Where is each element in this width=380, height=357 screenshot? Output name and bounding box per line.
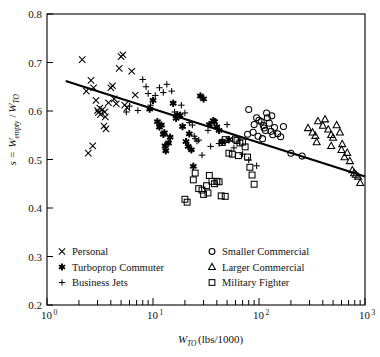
legend-item-turboprop-commuter[interactable]: Turboprop Commuter [59,262,165,273]
y-axis-tick-labels: 0.20.30.40.50.60.70.8 [28,8,42,311]
data-point [246,107,252,113]
x-marker-icon [59,248,65,254]
legend-label: Business Jets [72,277,128,288]
data-point [109,83,115,89]
legend-item-smaller-commercial[interactable]: Smaller Commercial [209,246,309,257]
data-point [266,120,272,126]
svg-text:2: 2 [266,308,270,317]
svg-text:0: 0 [54,308,58,317]
chart-figure: 0.20.30.40.50.60.70.8 100101102103 s = W… [0,0,380,357]
data-point [116,65,122,71]
y-tick-label: 0.4 [28,202,42,214]
data-point [190,163,196,170]
legend: PersonalTurboprop CommuterBusiness JetsS… [59,246,309,288]
x-tick-label: 101 [147,308,164,322]
data-point [336,129,343,135]
legend-item-business-jets[interactable]: Business Jets [59,277,128,288]
y-tick-label: 0.6 [28,105,42,117]
data-point [305,124,312,130]
y-axis-ticks [47,14,53,305]
svg-text:1: 1 [160,308,164,317]
triangle-marker-icon [209,263,216,269]
data-point [251,181,257,187]
data-point [168,88,174,94]
data-point [247,164,253,170]
data-point [179,123,185,130]
data-point [129,68,135,74]
y-tick-label: 0.5 [28,154,42,166]
svg-text:10: 10 [253,309,265,321]
legend-label: Personal [72,246,108,257]
x-tick-label: 102 [253,308,270,322]
data-point [145,90,151,96]
x-axis-title-text: WTO (lbs/1000) [178,333,244,348]
data-point [322,116,329,122]
y-axis-title: s = Wempty/WTO [6,93,21,165]
data-point [245,154,251,160]
data-point [313,138,320,144]
data-point [164,81,170,87]
data-point [192,170,198,176]
series-business-jets [123,76,260,169]
y-tick-label: 0.3 [28,251,42,263]
data-point [135,107,141,113]
data-point [120,52,126,58]
scatter-plot-svg: 0.20.30.40.50.60.70.8 100101102103 s = W… [0,0,380,357]
square-marker-icon [209,280,215,286]
data-point [205,190,211,196]
data-point [156,85,162,91]
data-point [314,118,321,124]
legend-label: Larger Commercial [222,262,304,273]
legend-item-larger-commercial[interactable]: Larger Commercial [209,262,305,273]
svg-text:s =: s = [6,151,18,165]
svg-text:TO: TO [187,339,197,348]
svg-text:10: 10 [41,309,53,321]
data-point [233,136,239,142]
data-point [250,129,256,135]
legend-item-military-fighter[interactable]: Military Fighter [209,277,290,288]
x-tick-label: 100 [41,308,58,322]
data-point [199,152,205,158]
data-points [79,52,364,206]
series-smaller-commercial [245,107,306,160]
x-axis-ticks [47,298,365,305]
plus-marker-icon [59,279,65,285]
data-point [140,76,146,82]
y-axis-title-text: s = Wempty/WTO [6,93,21,165]
x-axis-tick-labels: 100101102103 [41,308,376,322]
data-point [170,100,176,107]
svg-text:10: 10 [147,309,159,321]
data-point [333,121,340,127]
data-point [93,97,99,103]
data-point [85,150,91,156]
data-point [132,92,138,98]
svg-text:TO: TO [12,93,21,103]
legend-label: Smaller Commercial [222,246,309,257]
legend-item-personal[interactable]: Personal [59,246,108,257]
data-point [339,140,346,146]
data-point [253,163,259,169]
data-point [88,77,94,83]
y-tick-label: 0.8 [28,8,42,20]
svg-text:empty: empty [12,120,21,139]
data-point [143,84,149,90]
legend-label: Turboprop Commuter [72,262,165,273]
svg-text:3: 3 [372,308,376,317]
svg-text:(lbs/1000): (lbs/1000) [198,333,244,346]
data-point [190,177,196,183]
data-point [182,110,188,116]
svg-text:10: 10 [359,309,371,321]
x-tick-label: 103 [359,308,376,322]
data-point [201,191,207,197]
data-point [249,172,255,178]
data-point [103,126,109,132]
data-point [328,142,335,148]
data-point [280,123,286,129]
series-larger-commercial [305,116,364,186]
legend-label: Military Fighter [222,277,290,288]
svg-text:/: / [6,114,18,118]
series-turboprop-commuter [146,92,232,170]
circle-marker-icon [209,249,215,255]
data-point [178,102,184,108]
y-tick-label: 0.2 [28,299,42,311]
